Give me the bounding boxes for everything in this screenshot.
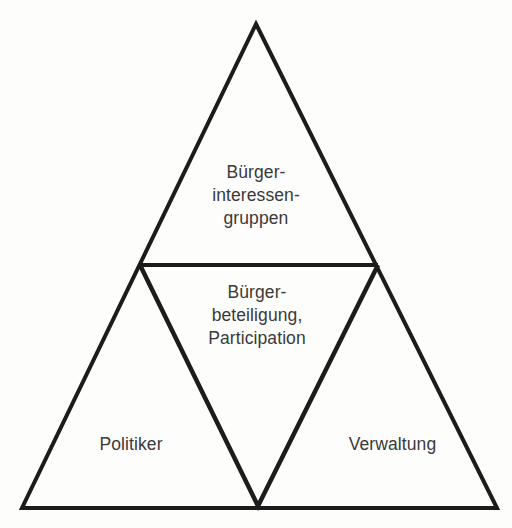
triangle-diagram: Bürger- interessen- gruppen Bürger- bete…: [0, 0, 512, 528]
zone-label-politiker: Politiker: [46, 433, 216, 456]
zone-label-verwaltung: Verwaltung: [300, 433, 485, 456]
zone-label-buergerbeteiligung-participation: Bürger- beteiligung, Participation: [141, 281, 373, 350]
zone-label-buerger-interessengruppen: Bürger- interessen- gruppen: [146, 161, 366, 230]
